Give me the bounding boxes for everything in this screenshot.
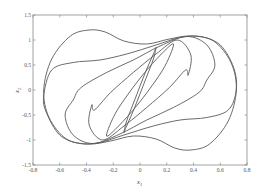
x-tick-label: -0.6	[55, 167, 64, 173]
x-tick-label: -0.4	[82, 167, 91, 173]
y-tick-label: 0.5	[24, 62, 31, 68]
x-tick-label: 0	[139, 167, 142, 173]
x-tick-label: 0.2	[163, 167, 170, 173]
y-tick-label: 0	[28, 87, 31, 93]
y-tick-label: -1	[26, 137, 31, 143]
x-axis-label-subscript: 1	[140, 182, 142, 187]
x-tick-label: 0.4	[190, 167, 197, 173]
phase-portrait-chart: -0.8-0.6-0.4-0.200.20.40.60.8 1.510.50-0…	[0, 0, 264, 195]
y-tick-label: -0.5	[22, 112, 31, 118]
x-tick-label: -0.2	[109, 167, 118, 173]
y-tick-label: 1	[28, 37, 31, 43]
y-tick-label: 1.5	[24, 12, 31, 18]
x-tick-label: 0.8	[244, 167, 251, 173]
x-tick-labels: -0.8-0.6-0.4-0.200.20.40.60.8	[29, 167, 251, 173]
y-tick-label: -1.5	[22, 162, 31, 168]
x-tick-label: 0.6	[217, 167, 224, 173]
chart-background	[0, 0, 264, 195]
